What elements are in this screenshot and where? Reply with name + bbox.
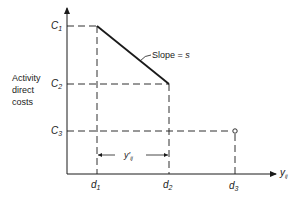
d3-label: d3 xyxy=(229,180,239,192)
slope-label: Slope = s xyxy=(152,50,190,60)
c1-label: C1 xyxy=(51,20,62,32)
c2-label: C2 xyxy=(51,78,62,90)
d2-label: d2 xyxy=(163,179,173,191)
d3-point xyxy=(233,129,237,133)
interval-label: y′ij xyxy=(123,150,134,161)
cost-duration-diagram: Slope = s y′ij C1 C2 C3 d1 d2 d3 yij xyxy=(0,0,298,197)
c3-label: C3 xyxy=(51,125,62,137)
d1-label: d1 xyxy=(91,179,101,191)
slope-leader xyxy=(140,55,151,61)
x-axis-label: yij xyxy=(279,167,288,179)
